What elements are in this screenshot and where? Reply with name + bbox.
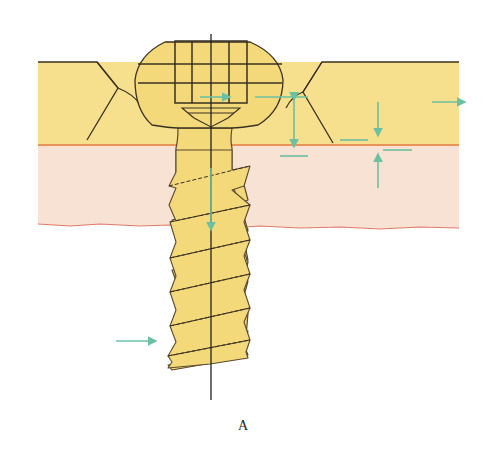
screw-threads [168, 150, 250, 368]
figure-caption: A [0, 418, 486, 434]
cancellous-bone-layer [38, 145, 459, 229]
screw-diagram [0, 0, 486, 461]
